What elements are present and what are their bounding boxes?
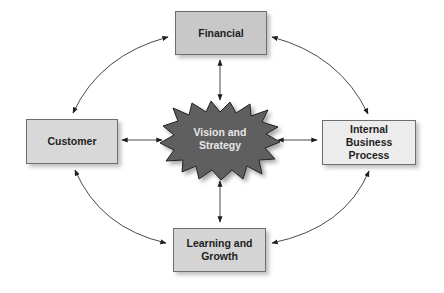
arrow-financial-internal [272,37,368,114]
internal-business-process-label: Internal Business Process [346,123,393,162]
financial-box: Financial [175,11,267,55]
arrow-customer-learning [75,170,166,243]
customer-label: Customer [47,135,96,148]
learning-growth-label: Learning and Growth [187,237,253,263]
arrow-internal-learning [272,171,369,243]
customer-box: Customer [26,119,118,164]
arrow-financial-customer [73,37,168,113]
learning-growth-box: Learning and Growth [173,228,266,272]
financial-label: Financial [198,27,244,40]
vision-strategy-label: Vision and Strategy [170,126,270,152]
internal-business-process-box: Internal Business Process [322,120,416,165]
